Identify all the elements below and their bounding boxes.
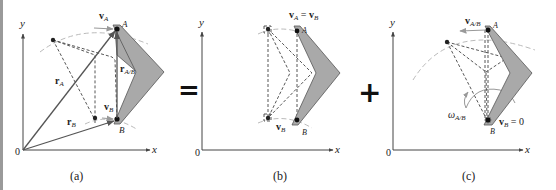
rigid-body-c xyxy=(484,26,532,125)
label-point-A: A xyxy=(301,26,307,35)
plus-operator: + xyxy=(358,76,381,109)
equals-operator: = xyxy=(178,75,200,105)
x-axis-label: x xyxy=(334,143,340,155)
origin-label: 0 xyxy=(195,147,200,158)
vector-v-AB xyxy=(460,30,486,31)
label-v-B: vB xyxy=(104,101,114,114)
point-B xyxy=(295,118,300,123)
ghost-point-A xyxy=(266,27,270,31)
rigid-body-a-shape xyxy=(113,25,164,124)
label-point-A: A xyxy=(121,19,128,29)
label-v-B: vB xyxy=(276,121,286,134)
caption-a: (a) xyxy=(70,169,83,183)
caption-c: (c) xyxy=(462,169,475,183)
vector-r-A xyxy=(23,31,115,150)
label-vA-eq-vB: vA = vB xyxy=(289,9,319,22)
point-A xyxy=(114,26,119,31)
label-r-B: rB xyxy=(67,116,76,129)
y-axis-label: y xyxy=(19,17,25,29)
ghost-point-A xyxy=(51,38,55,42)
y-axis-label: y xyxy=(389,16,395,28)
kinematics-figure: y x 0 vA A B rA rB rA/B vB (a) xyxy=(0,0,556,190)
panel-b: y x 0 vA = vB A B vB (b) xyxy=(195,9,340,183)
point-A xyxy=(295,29,300,34)
x-axis-label: x xyxy=(524,143,530,155)
caption-b: (b) xyxy=(273,169,287,183)
label-point-B: B xyxy=(119,125,125,135)
point-A xyxy=(486,28,491,33)
y-axis-label: y xyxy=(198,16,204,28)
label-point-A: A xyxy=(492,21,498,30)
point-B-pivot xyxy=(485,117,491,123)
origin-label: 0 xyxy=(386,147,391,158)
x-axis-label: x xyxy=(151,143,157,155)
label-v-B-zero: vB = 0 xyxy=(499,116,524,129)
label-v-AB: vA/B xyxy=(465,15,481,28)
label-point-B: B xyxy=(302,128,307,137)
ghost-point-B xyxy=(93,116,97,120)
panel-c: y x 0 vA/B A B ωA/B vB = 0 (c) xyxy=(386,15,535,183)
label-point-B: B xyxy=(490,127,495,136)
label-omega-AB: ωA/B xyxy=(448,109,466,122)
panel-a: y x 0 vA A B rA rB rA/B vB (a) xyxy=(15,10,164,183)
ghost-point-A xyxy=(445,40,449,44)
ghost-point-B xyxy=(266,116,270,120)
vector-v-A xyxy=(94,28,113,29)
origin-label: 0 xyxy=(15,146,20,157)
label-r-A: rA xyxy=(55,75,64,88)
label-v-A: vA xyxy=(99,10,109,23)
rigid-body-b xyxy=(292,26,340,125)
